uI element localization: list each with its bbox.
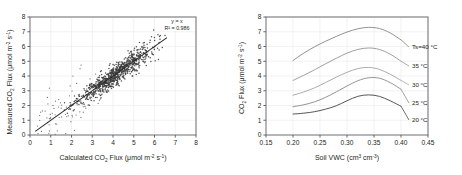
scatter-x-tick-label: 4 xyxy=(111,139,115,146)
scatter-y-tick-label: 5 xyxy=(22,58,26,65)
response-x-tick-label: 0.45 xyxy=(422,139,435,146)
scatter-y-tick-label: 2 xyxy=(22,102,26,109)
scatter-x-tick-label: 8 xyxy=(194,139,198,146)
response-y-tick-label: 7 xyxy=(258,28,262,35)
curve-label: 30 °C xyxy=(412,81,428,88)
scatter-x-tick-label: 3 xyxy=(90,139,94,146)
r-squared-annotation: R² = 0.986 xyxy=(165,25,190,31)
scatter-x-tick-label: 0 xyxy=(28,139,32,146)
scatter-y-tick-label: 8 xyxy=(22,13,26,20)
response-curve-labels: Ts=40 °C35 °C30 °C25 °C20 °C xyxy=(412,43,438,123)
response-x-axis-title: Soil VWC (cm3 cm-3) xyxy=(315,154,379,162)
scatter-y-tick-label: 7 xyxy=(22,28,26,35)
curve-label-leader xyxy=(401,40,409,47)
response-ticks: 0123456780.150.200.250.300.350.400.45 xyxy=(258,13,435,146)
response-y-tick-label: 5 xyxy=(258,58,262,65)
scatter-x-axis-title: Calculated CO2 Flux (μmol m-2 s-1) xyxy=(59,154,166,163)
scatter-y-axis-title: Measured CO2 Flux (μmol m-2 s-1) xyxy=(6,29,15,134)
scatter-svg: 012345678012345678 y = x R² = 0.986 Calc… xyxy=(0,0,231,175)
curve-label: 20 °C xyxy=(412,116,428,123)
response-svg: 0123456780.150.200.250.300.350.400.45 Ts… xyxy=(231,0,462,175)
response-curves xyxy=(293,27,409,120)
equation-annotation: y = x xyxy=(171,18,183,24)
scatter-y-tick-label: 1 xyxy=(22,117,26,124)
response-x-tick-label: 0.20 xyxy=(287,139,300,146)
curve-label: 25 °C xyxy=(412,99,428,106)
response-y-axis-title: CO2 Flux (μmol m-2 s-1) xyxy=(238,42,247,114)
scatter-x-tick-label: 6 xyxy=(153,139,157,146)
curve-label-leader xyxy=(401,106,409,120)
curve-label-leader xyxy=(401,89,409,103)
response-x-tick-label: 0.40 xyxy=(395,139,408,146)
scatter-y-tick-label: 0 xyxy=(22,131,26,138)
curve-label: Ts=40 °C xyxy=(412,43,438,50)
scatter-x-tick-label: 5 xyxy=(132,139,136,146)
scatter-y-tick-label: 6 xyxy=(22,43,26,50)
one-to-one-line xyxy=(35,38,167,132)
scatter-x-tick-label: 2 xyxy=(70,139,74,146)
scatter-x-tick-label: 7 xyxy=(173,139,177,146)
response-y-tick-label: 2 xyxy=(258,102,262,109)
response-y-tick-label: 1 xyxy=(258,117,262,124)
response-x-tick-label: 0.15 xyxy=(260,139,273,146)
response-y-tick-label: 4 xyxy=(258,72,262,79)
figure-container: 012345678012345678 y = x R² = 0.986 Calc… xyxy=(0,0,462,175)
curve-label-leader xyxy=(401,80,409,85)
moisture-response-panel: 0123456780.150.200.250.300.350.400.45 Ts… xyxy=(231,0,462,175)
scatter-panel: 012345678012345678 y = x R² = 0.986 Calc… xyxy=(0,0,231,175)
scatter-points xyxy=(37,29,166,135)
response-gridlines xyxy=(266,17,428,135)
response-x-tick-label: 0.30 xyxy=(341,139,354,146)
scatter-y-tick-label: 3 xyxy=(22,87,26,94)
curve-label: 35 °C xyxy=(412,62,428,69)
response-y-tick-label: 6 xyxy=(258,43,262,50)
response-y-tick-label: 3 xyxy=(258,87,262,94)
scatter-y-tick-label: 4 xyxy=(22,72,26,79)
response-y-tick-label: 0 xyxy=(258,131,262,138)
response-y-tick-label: 8 xyxy=(258,13,262,20)
curve-label-leader xyxy=(401,61,409,66)
scatter-x-tick-label: 1 xyxy=(49,139,53,146)
response-x-tick-label: 0.35 xyxy=(368,139,381,146)
response-x-tick-label: 0.25 xyxy=(314,139,327,146)
